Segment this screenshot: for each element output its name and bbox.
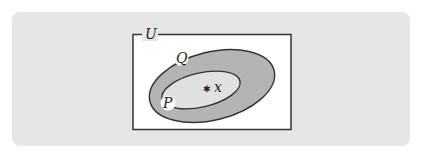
universe-label: U bbox=[145, 26, 158, 42]
venn-diagram: U Q P ✱ x bbox=[0, 0, 422, 161]
point-label: x bbox=[214, 79, 222, 95]
set-q-label: Q bbox=[176, 50, 188, 66]
point-marker-icon: ✱ bbox=[203, 84, 211, 94]
set-p-label: P bbox=[162, 95, 173, 111]
